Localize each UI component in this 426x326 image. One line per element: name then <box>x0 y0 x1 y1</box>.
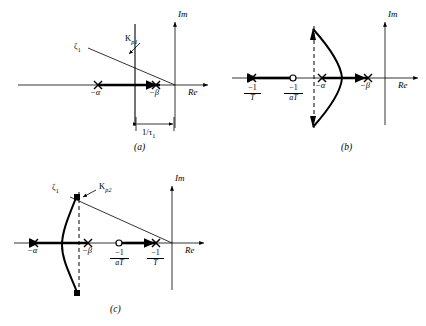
panel-c-complex-branch <box>62 198 77 292</box>
panel-b-pole-alpha-label: −α <box>315 81 325 90</box>
panel-a-graphics <box>18 22 208 131</box>
panel-a-gain-label: Kp1 <box>125 34 138 45</box>
panel-a-damping-ray <box>88 48 175 85</box>
panel-b-frac-neg-one-over-T: −1 T <box>244 84 261 103</box>
panel-a-pole-beta-label: −β <box>149 88 159 97</box>
panel-a-caption: (a) <box>134 143 145 153</box>
figure-root: Im Re −α −β ζ1 Kp1 1/τ1 (a) Im Re −α −β … <box>0 0 426 326</box>
panel-b-graphics <box>232 22 418 130</box>
panel-b-frac-aT-denominator: aT <box>284 94 303 103</box>
panel-b-branch-arrow-down <box>310 116 316 128</box>
panel-c-pole-beta-label: −β <box>82 246 92 255</box>
panel-c-graphics <box>14 186 204 296</box>
panel-c-zeta-label: ζ1 <box>52 183 59 194</box>
panel-a-zeta-subscript: 1 <box>78 46 81 53</box>
panel-a-zeta-label: ζ1 <box>74 42 81 53</box>
panel-c-kp2-pointer <box>83 190 96 197</box>
panel-c-zeta-subscript: 1 <box>56 187 59 194</box>
panel-c-frac-aT-denominator: aT <box>110 259 129 268</box>
panel-c-frac-T-denominator: T <box>147 259 164 268</box>
panel-c-gain-label: Kp2 <box>99 182 112 193</box>
panel-c-frac-neg-one-over-aT: −1 aT <box>110 249 129 268</box>
panel-c-damping-ray <box>70 197 172 243</box>
panel-c-frac-neg-one-over-T: −1 T <box>147 249 164 268</box>
panel-b-real-axis-label: Re <box>398 81 408 90</box>
panel-a-tau-dimension-label: 1/τ1 <box>142 128 156 139</box>
panel-a-gain-subscript: p1 <box>131 38 137 45</box>
panel-a-pole-alpha-label: −α <box>90 88 100 97</box>
panel-c-branch-point-bottom <box>74 290 80 296</box>
panel-c-gain-subscript: p2 <box>105 186 111 193</box>
figure-svg <box>0 0 426 326</box>
panel-c-imag-axis-label: Im <box>175 174 185 183</box>
panel-b-pole-beta-label: −β <box>360 81 370 90</box>
panel-b-frac-T-denominator: T <box>244 94 261 103</box>
panel-b-imag-axis-label: Im <box>388 10 398 19</box>
panel-b-frac-neg-one-over-aT: −1 aT <box>284 84 303 103</box>
panel-a-real-axis-label: Re <box>188 88 198 97</box>
panel-c-zero-one-over-aT <box>116 240 122 246</box>
panel-c-pole-alpha-label: −α <box>27 246 37 255</box>
panel-b-zero-one-over-aT <box>290 75 296 81</box>
panel-b-branch-arrow-up <box>310 28 316 40</box>
panel-a-imag-axis-label: Im <box>178 10 188 19</box>
panel-a-tau-subscript: 1 <box>152 132 155 139</box>
panel-b-caption: (b) <box>341 143 352 153</box>
panel-c-caption: (c) <box>110 305 121 315</box>
panel-c-real-axis-label: Re <box>185 246 195 255</box>
